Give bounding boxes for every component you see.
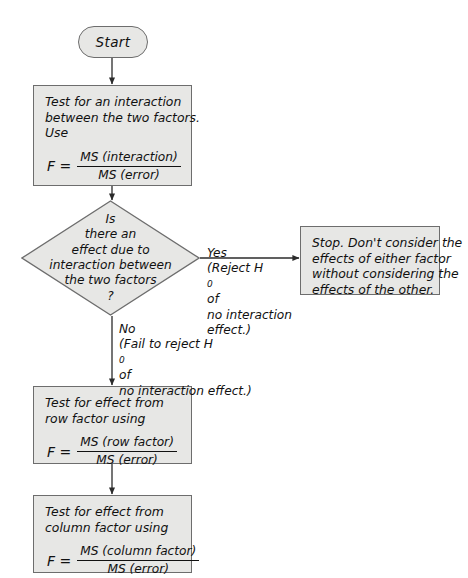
- no-note-line-1: (Fail to reject H0 of: [119, 337, 252, 383]
- no-note-line-2: no interaction effect.): [119, 384, 252, 399]
- interaction-keyword: interaction: [114, 94, 181, 109]
- yes-note-lead: (Reject H: [207, 261, 292, 276]
- interaction-test-box: Test for an interaction between the two …: [33, 85, 192, 186]
- decision-diamond-shape: [21, 200, 200, 316]
- column-factor-test-box: Test for effect from column factor using…: [33, 495, 192, 573]
- interaction-formula: F = MS (interaction) MS (error): [47, 150, 182, 183]
- start-label: Start: [96, 34, 131, 50]
- row-factor-formula-lhs: F =: [47, 444, 71, 460]
- column-factor-line-2: column factor using: [45, 520, 182, 536]
- interaction-line-1: Test for an interaction: [45, 94, 182, 110]
- interaction-numerator: MS (interaction): [77, 150, 181, 167]
- column-factor-denominator: MS (error): [107, 561, 169, 577]
- row-factor-formula: F = MS (row factor) MS (error): [47, 435, 182, 468]
- interaction-fraction: MS (interaction) MS (error): [77, 150, 181, 183]
- interaction-formula-lhs: F =: [47, 158, 71, 174]
- yes-note-line-2: no interaction: [207, 308, 292, 323]
- flowchart-canvas: Start Test for an interaction between th…: [0, 0, 468, 578]
- yes-note-tail: of: [207, 292, 292, 307]
- column-factor-formula: F = MS (column factor) MS (error): [47, 544, 182, 577]
- interaction-line-3: Use: [45, 125, 182, 141]
- row-factor-line-2: row factor using: [45, 411, 182, 427]
- interaction-denominator: MS (error): [98, 167, 160, 183]
- no-branch-label: No (Fail to reject H0 of no interaction …: [119, 322, 252, 399]
- stop-message-box: Stop. Don't consider the effects of eith…: [300, 226, 440, 295]
- row-factor-numerator: MS (row factor): [77, 435, 177, 452]
- row-factor-fraction: MS (row factor) MS (error): [77, 435, 177, 468]
- no-null-subscript: 0: [119, 353, 252, 368]
- column-factor-formula-lhs: F =: [47, 553, 71, 569]
- interaction-decision-diamond: Is there an effect due to interaction be…: [21, 200, 200, 316]
- yes-answer: Yes: [207, 246, 292, 261]
- interaction-line-2: between the two factors.: [45, 110, 182, 126]
- no-answer: No: [119, 322, 252, 337]
- row-factor-denominator: MS (error): [96, 452, 158, 468]
- no-note-lead: (Fail to reject H: [119, 337, 252, 352]
- no-note-tail: of: [119, 368, 252, 383]
- stop-line-3: without considering the: [312, 266, 430, 282]
- column-factor-fraction: MS (column factor) MS (error): [77, 544, 199, 577]
- stop-line-2: effects of either factor: [312, 251, 430, 267]
- column-factor-line-1: Test for effect from: [45, 504, 182, 520]
- interaction-line-1-lead: Test for an: [45, 94, 114, 109]
- yes-null-subscript: 0: [207, 277, 292, 292]
- stop-line-1: Stop. Don't consider the: [312, 235, 430, 251]
- column-factor-numerator: MS (column factor): [77, 544, 199, 561]
- start-terminator: Start: [78, 26, 148, 58]
- yes-note-line-1: (Reject H0 of: [207, 261, 292, 307]
- stop-line-4: effects of the other.: [312, 282, 430, 298]
